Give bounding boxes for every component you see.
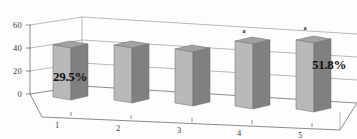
bar-4 bbox=[235, 37, 270, 109]
x-axis-label-2: 2 bbox=[111, 124, 125, 133]
y-axis-label-20: 20 bbox=[0, 67, 22, 76]
bar-3 bbox=[175, 45, 210, 106]
x-axis-label-5: 5 bbox=[293, 131, 307, 139]
y-axis-label-0: 0 bbox=[0, 90, 22, 99]
x-axis-label-1: 1 bbox=[50, 121, 64, 130]
y-axis-label-40: 40 bbox=[0, 44, 22, 53]
data-label-bar-1: 29.5% bbox=[53, 70, 87, 83]
significance-marker-bar-5: a bbox=[301, 25, 309, 31]
significance-marker-bar-4: a bbox=[240, 28, 248, 34]
bar-5 bbox=[296, 36, 331, 112]
bar-chart-3d: 60 40 20 0 1 2 3 4 5 29.5% 51.8% a a bbox=[0, 0, 357, 139]
bar-2 bbox=[114, 41, 149, 103]
y-axis-label-60: 60 bbox=[0, 21, 22, 30]
data-label-bar-5: 51.8% bbox=[312, 58, 346, 71]
x-axis-label-4: 4 bbox=[232, 129, 246, 138]
x-axis-label-3: 3 bbox=[172, 126, 186, 135]
